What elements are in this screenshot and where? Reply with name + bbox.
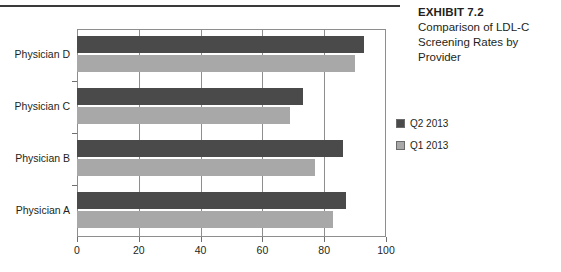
legend-label: Q2 2013 [410, 118, 448, 129]
exhibit-caption: EXHIBIT 7.2 Comparison of LDL-C Screenin… [418, 5, 558, 66]
bar-physician-d-q2-2013 [77, 36, 364, 53]
header-rule [0, 5, 400, 7]
x-axis-label-0: 0 [62, 244, 92, 256]
bar-group [77, 185, 386, 237]
bar-physician-b-q1-2013 [77, 159, 315, 176]
legend-label: Q1 2013 [410, 140, 448, 151]
chart-legend: Q2 2013Q1 2013 [396, 118, 448, 162]
x-axis-label-20: 20 [124, 244, 154, 256]
x-axis-tick [77, 237, 78, 242]
exhibit-subtitle: Comparison of LDL-C Screening Rates by P… [418, 20, 558, 66]
legend-q2-2013: Q2 2013 [396, 118, 448, 129]
legend-q1-2013: Q1 2013 [396, 140, 448, 151]
bar-physician-c-q1-2013 [77, 107, 290, 124]
x-axis-label-60: 60 [247, 244, 277, 256]
bar-group [77, 81, 386, 133]
bar-group [77, 29, 386, 81]
bar-group [77, 133, 386, 185]
exhibit-title: EXHIBIT 7.2 [418, 5, 558, 20]
y-axis-label-physician-d: Physician D [0, 48, 70, 60]
bar-physician-b-q2-2013 [77, 140, 343, 157]
bar-physician-a-q1-2013 [77, 211, 333, 228]
bar-chart: Physician DPhysician CPhysician BPhysici… [0, 20, 400, 272]
x-axis-label-100: 100 [371, 244, 401, 256]
y-axis-tick [72, 81, 77, 82]
x-axis-tick [324, 237, 325, 242]
bar-physician-d-q1-2013 [77, 55, 355, 72]
bar-physician-a-q2-2013 [77, 192, 346, 209]
x-axis-label-40: 40 [186, 244, 216, 256]
x-axis-label-80: 80 [309, 244, 339, 256]
legend-swatch-icon [396, 141, 405, 150]
y-axis-tick [72, 185, 77, 186]
y-axis-label-physician-c: Physician C [0, 100, 70, 112]
x-axis-tick [386, 237, 387, 242]
x-axis-tick [201, 237, 202, 242]
x-axis-tick [139, 237, 140, 242]
y-axis-label-physician-a: Physician A [0, 204, 70, 216]
y-axis-tick [72, 133, 77, 134]
x-axis-tick [262, 237, 263, 242]
y-axis-label-physician-b: Physician B [0, 152, 70, 164]
bar-physician-c-q2-2013 [77, 88, 303, 105]
legend-swatch-icon [396, 119, 405, 128]
